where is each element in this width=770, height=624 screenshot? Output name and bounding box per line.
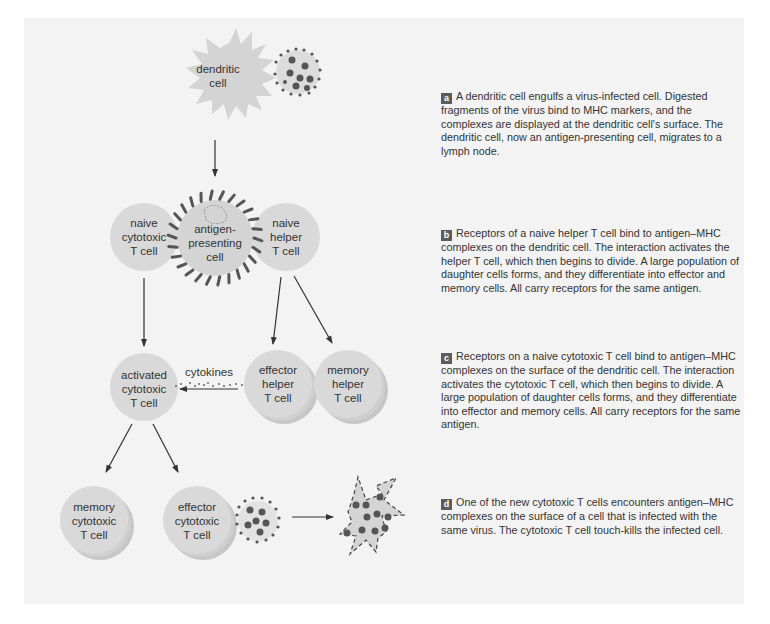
effector-cytotoxic-cell-label: effector cytotoxic T cell [163,500,231,542]
step-d-description: dOne of the new cytotoxic T cells encoun… [441,496,741,537]
killed-infected-cell [340,477,404,554]
step-a-badge: a [441,93,452,104]
step-b-description: bReceptors of a naive helper T cell bind… [441,227,741,295]
cytokines-label: cytokines [185,366,233,378]
virus-infected-cell [273,47,321,96]
dendritic-cell-label: dendritic cell [190,62,246,90]
naive-helper-cell-label: naive helper T cell [252,216,320,258]
step-a-description: aA dendritic cell engulfs a virus-infect… [441,90,741,158]
step-b-text: Receptors of a naive helper T cell bind … [441,227,739,294]
activated-cytotoxic-cell-label: activated cytotoxic T cell [106,368,182,410]
effector-helper-cell-label: effector helper T cell [244,363,312,405]
naive-cytotoxic-cell-label: naive cytotoxic T cell [110,216,178,258]
step-c-badge: c [441,353,452,364]
step-d-text: One of the new cytotoxic T cells encount… [441,496,733,536]
cytokine-dots [175,382,243,388]
memory-helper-cell-label: memory helper T cell [314,363,382,405]
step-a-text: A dendritic cell engulfs a virus-infecte… [441,90,723,157]
step-b-badge: b [441,230,452,241]
memory-cytotoxic-cell-label: memory cytotoxic T cell [60,500,128,542]
step-d-badge: d [441,499,452,510]
antigen-presenting-cell-label: antigen- presenting cell [178,222,252,264]
step-c-text: Receptors on a naive cytotoxic T cell bi… [441,350,740,430]
step-c-description: cReceptors on a naive cytotoxic T cell b… [441,350,741,432]
infected-target-cell [235,496,280,543]
